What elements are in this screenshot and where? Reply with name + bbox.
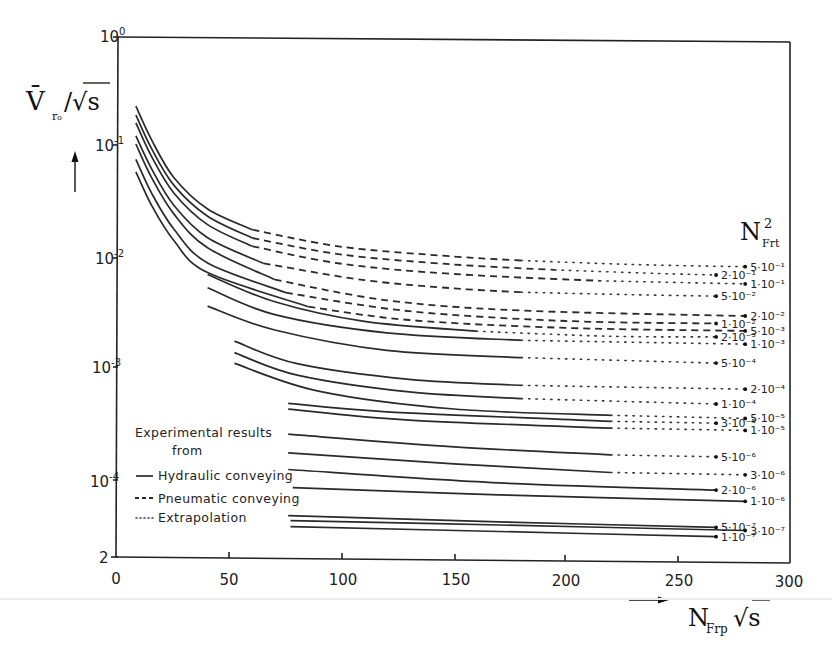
y-tick-1e-1: 10-1 bbox=[95, 135, 124, 155]
curve-5_10_-1 bbox=[136, 106, 745, 267]
dotted-segment bbox=[611, 455, 716, 457]
legend-item-pneumatic: Pneumatic conveying bbox=[135, 491, 300, 506]
chart-canvas: 100 10-1 10-2 10-3 10-4 2 0 50 100 150 2… bbox=[0, 0, 832, 653]
scan-edge bbox=[0, 598, 832, 600]
curve-endpoint-dot bbox=[714, 361, 718, 365]
x-axis bbox=[116, 557, 790, 563]
curve-endpoint-dot bbox=[714, 455, 718, 459]
curve-label: 5·10⁻² bbox=[721, 290, 756, 303]
x-tick-150: 150 bbox=[442, 571, 471, 589]
svg-text:N: N bbox=[740, 218, 761, 246]
y-tick-1e0: 100 bbox=[100, 26, 125, 46]
curve-2_10_-2 bbox=[136, 144, 745, 316]
curve-5_10_-3 bbox=[136, 172, 745, 331]
dotted-segment bbox=[521, 358, 716, 364]
curve-label: 1·10⁻⁶ bbox=[750, 495, 785, 508]
x-tick-100: 100 bbox=[329, 571, 358, 589]
top-border bbox=[118, 37, 790, 42]
svg-text:/√s: /√s bbox=[64, 88, 100, 116]
curve-endpoint-dot bbox=[714, 294, 718, 298]
solid-segment bbox=[288, 470, 716, 491]
dotted-segment bbox=[521, 399, 716, 404]
svg-text:Pneumatic conveying: Pneumatic conveying bbox=[158, 491, 300, 506]
curve-5_10_-6 bbox=[288, 434, 716, 457]
dotted-segment bbox=[521, 292, 716, 296]
curve-endpoint-dot bbox=[743, 429, 747, 433]
dotted-segment bbox=[611, 473, 745, 475]
curve-label: 1·10⁻¹ bbox=[750, 278, 785, 291]
curve-label: 5·10⁻⁴ bbox=[721, 357, 756, 370]
dashed-segment bbox=[252, 230, 521, 261]
svg-text:V̄: V̄ bbox=[25, 85, 46, 116]
solid-segment bbox=[288, 434, 611, 455]
solid-segment bbox=[235, 363, 611, 415]
curve-label: 1·10⁻³ bbox=[750, 338, 785, 351]
dotted-segment bbox=[521, 340, 745, 344]
y-tick-1e-4: 10-4 bbox=[90, 471, 119, 491]
curve-label: 1·10⁻⁷ bbox=[721, 531, 756, 544]
curve-3_10_-5 bbox=[288, 403, 716, 423]
dashed-segment bbox=[252, 238, 554, 270]
solid-segment bbox=[136, 106, 253, 230]
curve-endpoint-dot bbox=[743, 282, 747, 286]
x-axis-label: N Frp √s bbox=[629, 597, 770, 637]
curve-label: 5·10⁻⁶ bbox=[721, 451, 756, 464]
curve-endpoint-dot bbox=[743, 499, 747, 503]
svg-text:2: 2 bbox=[764, 216, 772, 231]
curve-5_10_-4 bbox=[208, 306, 716, 363]
curve-5_10_-5 bbox=[235, 363, 746, 418]
curve-endpoint-dot bbox=[714, 335, 718, 339]
svg-text:Extrapolation: Extrapolation bbox=[158, 510, 247, 525]
plot-frame bbox=[116, 37, 790, 563]
curve-2_10_-6 bbox=[288, 470, 716, 491]
legend-item-hydraulic: Hydraulic conveying bbox=[136, 468, 293, 483]
curve-endpoint-dot bbox=[743, 387, 747, 391]
dotted-segment bbox=[521, 385, 745, 389]
curve-1_10_-2 bbox=[136, 159, 716, 323]
svg-text:Hydraulic conveying: Hydraulic conveying bbox=[158, 468, 293, 483]
svg-text:√s: √s bbox=[733, 604, 761, 632]
svg-text:r₀: r₀ bbox=[52, 110, 62, 123]
y-tick-1e-2: 10-2 bbox=[95, 248, 124, 268]
curve-endpoint-dot bbox=[714, 273, 718, 277]
curve-1_10_-4 bbox=[235, 353, 717, 404]
dotted-segment bbox=[611, 421, 716, 423]
x-tick-250: 250 bbox=[665, 572, 694, 590]
x-tick-300: 300 bbox=[775, 573, 804, 591]
solid-segment bbox=[208, 288, 522, 341]
x-tick-200: 200 bbox=[552, 572, 581, 590]
curve-label: 1·10⁻⁴ bbox=[721, 398, 756, 411]
curve-endpoint-dot bbox=[714, 488, 718, 492]
solid-segment bbox=[288, 403, 611, 421]
legend-item-extrapolation: Extrapolation bbox=[136, 510, 247, 525]
curve-label: 2·10⁻⁴ bbox=[750, 383, 785, 396]
dotted-segment bbox=[521, 261, 745, 267]
curve-endpoint-dot bbox=[743, 342, 747, 346]
dotted-segment bbox=[555, 270, 716, 275]
up-arrow-icon bbox=[72, 151, 79, 192]
curve-endpoint-dot bbox=[714, 322, 718, 326]
curve-2_10_-3 bbox=[208, 275, 716, 337]
legend-subtitle: from bbox=[172, 443, 203, 458]
solid-segment bbox=[136, 172, 309, 307]
dashed-segment bbox=[252, 246, 599, 280]
curve-endpoint-dot bbox=[714, 402, 718, 406]
curve-1_10_-1 bbox=[136, 123, 745, 284]
legend-title: Experimental results bbox=[135, 425, 272, 440]
y-tick-2e-5: 2 bbox=[99, 549, 109, 567]
solid-segment bbox=[288, 453, 611, 473]
curve-endpoint-dot bbox=[743, 473, 747, 477]
curve-label: 3·10⁻⁶ bbox=[750, 469, 785, 482]
dotted-segment bbox=[476, 331, 716, 337]
x-tick-50: 50 bbox=[219, 571, 238, 589]
curve-endpoint-dot bbox=[714, 526, 718, 530]
solid-segment bbox=[136, 115, 253, 238]
dashed-segment bbox=[275, 280, 745, 316]
parameter-label: N 2 Frt bbox=[740, 216, 780, 250]
legend: Experimental results from Hydraulic conv… bbox=[135, 425, 300, 525]
svg-text:Frp: Frp bbox=[706, 622, 728, 636]
curve-endpoint-dot bbox=[714, 535, 718, 539]
curve-label: 1·10⁻⁵ bbox=[750, 424, 785, 437]
curve-2_10_-1 bbox=[136, 115, 716, 275]
curve-endpoint-dot bbox=[714, 421, 718, 425]
